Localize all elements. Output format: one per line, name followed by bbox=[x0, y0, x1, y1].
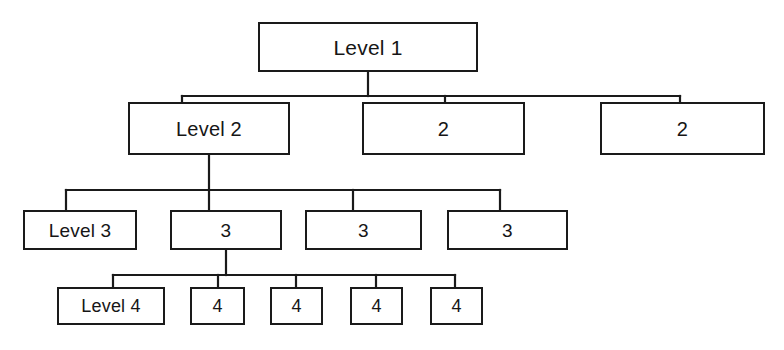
node-level-2-first[interactable]: Level 2 bbox=[128, 102, 290, 155]
node-level-3-third[interactable]: 3 bbox=[305, 210, 422, 250]
node-label: 4 bbox=[451, 297, 461, 315]
node-level-4-fourth[interactable]: 4 bbox=[350, 287, 403, 325]
node-label: Level 1 bbox=[333, 37, 402, 58]
node-label: 2 bbox=[677, 119, 688, 139]
node-level-4-third[interactable]: 4 bbox=[270, 287, 323, 325]
node-level-3-first[interactable]: Level 3 bbox=[23, 210, 137, 250]
node-label: 3 bbox=[221, 221, 232, 240]
node-label: 3 bbox=[358, 221, 369, 240]
node-label: 2 bbox=[438, 119, 449, 139]
node-label: 4 bbox=[371, 297, 381, 315]
node-label: 4 bbox=[291, 297, 301, 315]
node-level-3-second[interactable]: 3 bbox=[170, 210, 282, 250]
node-level-1-root[interactable]: Level 1 bbox=[258, 22, 478, 72]
node-level-2-second[interactable]: 2 bbox=[362, 102, 525, 155]
node-level-3-fourth[interactable]: 3 bbox=[447, 210, 568, 250]
node-label: Level 2 bbox=[176, 119, 242, 139]
node-label: 4 bbox=[212, 297, 222, 315]
node-label: 3 bbox=[502, 221, 513, 240]
node-level-2-third[interactable]: 2 bbox=[600, 102, 765, 155]
hierarchy-diagram: Level 1 Level 2 2 2 Level 3 3 3 3 Level … bbox=[0, 0, 784, 350]
node-level-4-second[interactable]: 4 bbox=[190, 287, 245, 325]
node-level-4-first[interactable]: Level 4 bbox=[57, 287, 165, 325]
node-label: Level 4 bbox=[81, 297, 140, 315]
node-level-4-fifth[interactable]: 4 bbox=[430, 287, 483, 325]
node-label: Level 3 bbox=[49, 221, 112, 240]
